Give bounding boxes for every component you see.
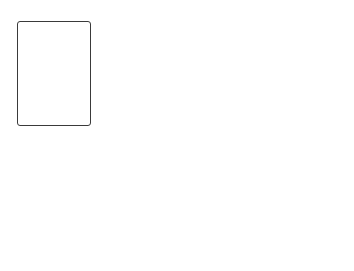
- p-class-box: [17, 21, 91, 126]
